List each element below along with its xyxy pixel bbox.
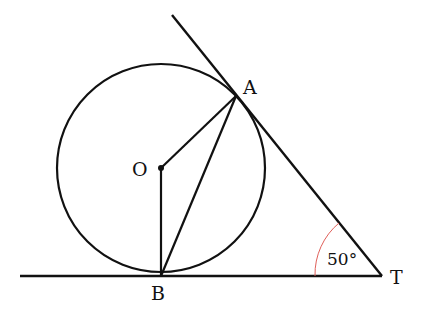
angle-label: 50° [327, 249, 357, 269]
radius-oa [161, 96, 236, 168]
label-o: O [132, 158, 148, 180]
tangent-line-at [172, 15, 382, 276]
label-b: B [151, 282, 165, 304]
diagram-canvas: A O B T 50° [0, 0, 427, 315]
label-a: A [242, 76, 257, 98]
label-t: T [390, 266, 403, 288]
center-point-o [158, 165, 164, 171]
